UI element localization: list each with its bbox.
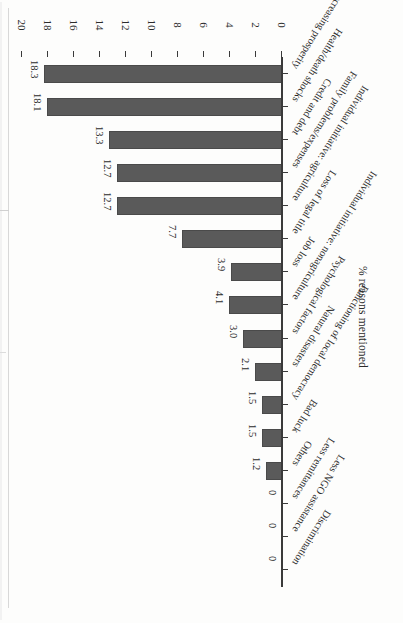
category-axis-line bbox=[281, 56, 282, 587]
bar-value-label: 12.7 bbox=[102, 159, 113, 177]
bar bbox=[229, 296, 282, 314]
value-axis-tick-label: 0 bbox=[276, 10, 288, 40]
bar-value-label: 2.1 bbox=[240, 358, 251, 371]
category-axis-tick bbox=[282, 238, 288, 239]
category-axis-tick bbox=[282, 338, 288, 339]
bar-row: 7.7 bbox=[22, 223, 282, 256]
bar bbox=[243, 330, 282, 348]
bar-value-label: 1.5 bbox=[248, 424, 259, 437]
value-axis-line bbox=[282, 57, 283, 587]
category-axis-tick bbox=[282, 371, 288, 372]
bar-value-label: 18.3 bbox=[29, 60, 40, 78]
category-axis-tick bbox=[282, 536, 288, 537]
bar bbox=[231, 263, 282, 281]
category-axis-tick bbox=[282, 106, 288, 107]
bar-value-label: 18.1 bbox=[32, 93, 43, 111]
bar-row: 3.9 bbox=[22, 256, 282, 289]
bar-row: 2.1 bbox=[22, 355, 282, 388]
value-axis-tick-label: 6 bbox=[198, 10, 210, 40]
category-axis-tick bbox=[282, 470, 288, 471]
bar-row: 0 bbox=[22, 521, 282, 554]
bar-value-label: 13.3 bbox=[94, 126, 105, 144]
bar-row: 18.1 bbox=[22, 90, 282, 123]
category-axis-tick bbox=[282, 172, 288, 173]
bar bbox=[182, 230, 282, 248]
bar-value-label: 1.2 bbox=[251, 457, 262, 470]
bar-value-label: 4.1 bbox=[214, 291, 225, 304]
bar-value-label: 3.0 bbox=[228, 325, 239, 338]
category-axis-tick bbox=[282, 73, 288, 74]
value-axis-tick-label: 20 bbox=[16, 10, 28, 40]
category-axis-tick bbox=[282, 139, 288, 140]
bar-chart: % reasons mentioned 02468101214161820 18… bbox=[0, 0, 403, 623]
bar-row: 1.5 bbox=[22, 388, 282, 421]
bar-row: 13.3 bbox=[22, 123, 282, 156]
bar bbox=[117, 197, 282, 215]
category-axis-tick bbox=[282, 271, 288, 272]
bar-value-label: 7.7 bbox=[167, 225, 178, 238]
category-axis-tick bbox=[282, 569, 288, 570]
category-axis-tick bbox=[282, 304, 288, 305]
bar-value-label: 12.7 bbox=[102, 192, 113, 210]
bar-value-label: 0 bbox=[267, 556, 278, 561]
bar bbox=[263, 396, 283, 414]
bar-row: 1.5 bbox=[22, 421, 282, 454]
value-axis-tick-label: 2 bbox=[250, 10, 262, 40]
value-axis-tick-label: 8 bbox=[172, 10, 184, 40]
bar bbox=[109, 131, 282, 149]
bar bbox=[263, 429, 283, 447]
value-axis-tick-label: 12 bbox=[120, 10, 132, 40]
bar-row: 12.7 bbox=[22, 156, 282, 189]
bar-row: 3.0 bbox=[22, 322, 282, 355]
value-axis-tick-label: 14 bbox=[94, 10, 106, 40]
bar-row: 0 bbox=[22, 554, 282, 587]
bar bbox=[255, 363, 282, 381]
bar-row: 4.1 bbox=[22, 289, 282, 322]
bar-value-label: 3.9 bbox=[216, 258, 227, 271]
bar bbox=[47, 98, 282, 116]
category-axis-tick bbox=[282, 503, 288, 504]
rotated-figure-container: % reasons mentioned 02468101214161820 18… bbox=[0, 0, 403, 623]
value-axis-tick-label: 10 bbox=[146, 10, 158, 40]
value-axis-tick-label: 16 bbox=[68, 10, 80, 40]
category-label: Bad luck bbox=[290, 398, 319, 436]
bar-row: 18.3 bbox=[22, 57, 282, 90]
plot-area: 18.318.113.312.712.77.73.94.13.02.11.51.… bbox=[22, 57, 282, 587]
bar-value-label: 1.5 bbox=[248, 391, 259, 404]
category-axis-tick bbox=[282, 437, 288, 438]
bar-row: 1.2 bbox=[22, 455, 282, 488]
bar-row: 12.7 bbox=[22, 190, 282, 223]
bar bbox=[44, 65, 282, 83]
bar-value-label: 0 bbox=[267, 523, 278, 528]
category-axis-tick bbox=[282, 404, 288, 405]
bar-value-label: 0 bbox=[267, 490, 278, 495]
value-axis-tick-label: 18 bbox=[42, 10, 54, 40]
value-axis-title: % reasons mentioned bbox=[357, 207, 369, 427]
bar bbox=[117, 164, 282, 182]
category-axis-tick bbox=[282, 205, 288, 206]
bar bbox=[266, 462, 282, 480]
bar-row: 0 bbox=[22, 488, 282, 521]
value-axis-tick-label: 4 bbox=[224, 10, 236, 40]
